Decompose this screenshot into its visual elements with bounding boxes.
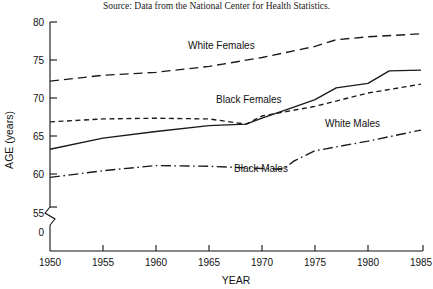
y-tick-marks — [50, 60, 57, 207]
y-tick-label-65: 65 — [33, 131, 45, 142]
y-axis-title: AGE (years) — [3, 111, 15, 169]
life-expectancy-chart: Source: Data from the National Center fo… — [0, 0, 433, 289]
series-label-black-males: Black Males — [234, 163, 288, 174]
y-tick-label-75: 75 — [33, 55, 45, 66]
series-label-white-males: White Males — [325, 118, 380, 129]
series-line-black-females — [50, 70, 421, 149]
y-tick-label-0: 0 — [38, 227, 44, 238]
x-tick-label-1985: 1985 — [410, 257, 433, 268]
x-tick-label-1980: 1980 — [357, 257, 380, 268]
y-tick-label-60: 60 — [33, 169, 45, 180]
x-tick-label-1970: 1970 — [251, 257, 274, 268]
series-label-white-females: White Females — [188, 40, 255, 51]
y-tick-label-55: 55 — [33, 208, 45, 219]
x-tick-label-1965: 1965 — [198, 257, 221, 268]
x-tick-label-1955: 1955 — [92, 257, 115, 268]
y-axis-break-icon — [45, 207, 55, 225]
x-tick-marks — [103, 245, 368, 251]
x-tick-label-1975: 1975 — [304, 257, 327, 268]
series-label-black-females: Black Females — [216, 94, 282, 105]
x-axis-title: YEAR — [222, 274, 251, 286]
y-tick-label-80: 80 — [33, 17, 45, 28]
chart-plot-area: 80 75 70 65 60 55 0 1950 1955 1960 1965 … — [0, 0, 433, 289]
x-tick-label-1950: 1950 — [39, 257, 62, 268]
x-tick-label-1960: 1960 — [145, 257, 168, 268]
y-tick-label-70: 70 — [33, 93, 45, 104]
